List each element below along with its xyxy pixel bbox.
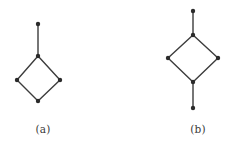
vertex-diamond-bottom [191, 80, 195, 84]
edge-diamond-top-diamond-right [193, 35, 218, 58]
vertex-diamond-top [36, 54, 40, 58]
edge-diamond-left-diamond-bottom [17, 80, 38, 101]
edge-diamond-top-diamond-right [38, 56, 60, 80]
vertex-diamond-right [216, 56, 220, 60]
edge-diamond-right-diamond-bottom [193, 58, 218, 82]
edge-diamond-top-diamond-left [168, 35, 193, 58]
vertex-diamond-top [191, 33, 195, 37]
figure-panel: (a) (b) [0, 0, 236, 152]
subfigure-caption-a: (a) [30, 123, 56, 135]
edge-diamond-top-diamond-left [17, 56, 38, 80]
subfigure-b-graph [166, 9, 220, 110]
edges-group-b [168, 11, 218, 108]
edges-group-a [17, 24, 60, 101]
vertex-diamond-left [166, 56, 170, 60]
vertex-pendant-bottom [191, 106, 195, 110]
vertex-pendant-top [191, 9, 195, 13]
vertex-diamond-right [58, 78, 62, 82]
vertex-pendant-top [36, 22, 40, 26]
subfigure-a-graph [15, 22, 62, 103]
vertex-diamond-left [15, 78, 19, 82]
vertex-diamond-bottom [36, 99, 40, 103]
edge-diamond-left-diamond-bottom [168, 58, 193, 82]
subfigure-caption-b: (b) [185, 123, 211, 135]
edge-diamond-right-diamond-bottom [38, 80, 60, 101]
